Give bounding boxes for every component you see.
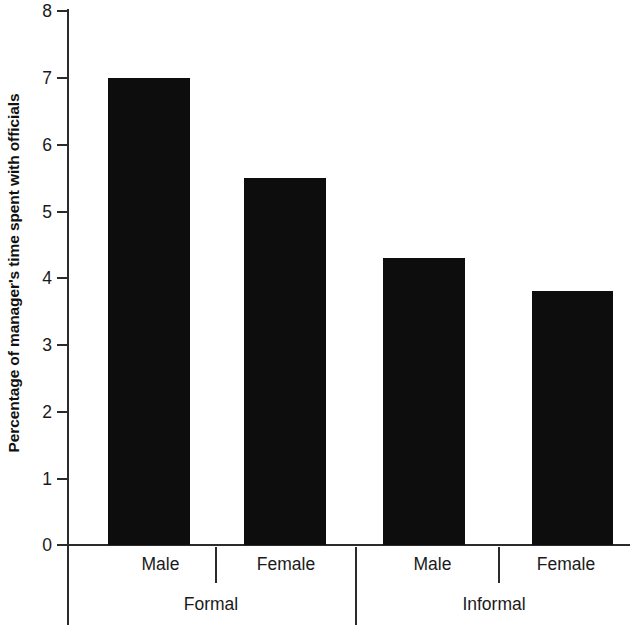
bars-layer (0, 0, 635, 545)
category-divider-formal (215, 547, 217, 583)
x-label-informal-male: Male (370, 556, 495, 574)
category-divider-informal (498, 547, 500, 583)
bar-informal-male[interactable] (383, 258, 465, 545)
group-divider-formal-informal (355, 547, 357, 625)
x-label-informal-female: Female (502, 556, 630, 574)
x-label-formal-female: Female (222, 556, 350, 574)
x-group-label-informal: Informal (358, 596, 630, 614)
bar-formal-female[interactable] (244, 178, 326, 545)
bar-informal-female[interactable] (532, 291, 613, 545)
x-group-label-formal: Formal (69, 596, 353, 614)
bar-chart-figure: Percentage of manager's time spent with … (0, 0, 635, 628)
x-label-formal-male: Male (108, 556, 213, 574)
bar-formal-male[interactable] (108, 78, 190, 545)
